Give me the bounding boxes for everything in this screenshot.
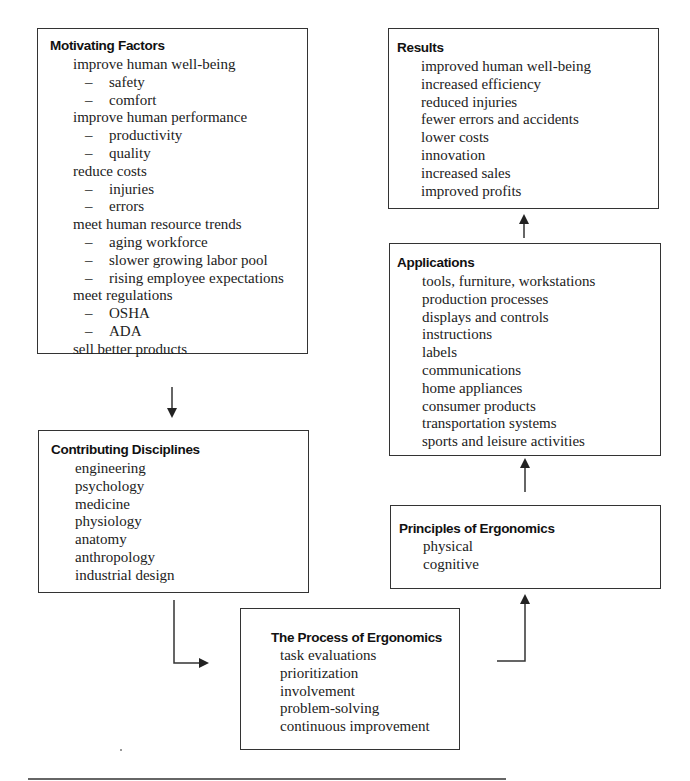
list-item: production processes	[422, 291, 660, 309]
list-item: lower costs	[421, 129, 658, 147]
motivating-factors-box: Motivating Factors improve human well-be…	[37, 28, 308, 354]
list-item: instructions	[422, 326, 660, 344]
list-item: sell better products	[73, 341, 307, 359]
applications-box: Applications tools, furniture, workstati…	[389, 243, 661, 456]
dash-bullet-icon: –	[73, 323, 109, 341]
motivating-factors-list: improve human well-being–safety–comforti…	[50, 56, 307, 359]
process-of-ergonomics-list: task evaluations prioritization involvem…	[271, 647, 459, 736]
dash-bullet-icon: –	[73, 74, 109, 92]
results-title: Results	[397, 39, 658, 57]
process-of-ergonomics-title: The Process of Ergonomics	[271, 629, 459, 647]
arrowhead-down-icon	[167, 408, 177, 418]
dash-bullet-icon: –	[73, 252, 109, 270]
list-item: tools, furniture, workstations	[422, 273, 660, 291]
item-text: slower growing labor pool	[109, 252, 268, 270]
dash-bullet-icon: –	[73, 181, 109, 199]
dash-bullet-icon: –	[73, 305, 109, 323]
dash-bullet-icon: –	[73, 145, 109, 163]
item-text: ADA	[109, 323, 142, 341]
list-item: anatomy	[75, 531, 308, 549]
sub-list-item: –quality	[73, 145, 307, 163]
list-item: communications	[422, 362, 660, 380]
list-item: labels	[422, 344, 660, 362]
bottom-rule	[28, 778, 506, 780]
list-item: physical	[423, 538, 660, 556]
dash-bullet-icon: –	[73, 198, 109, 216]
list-item: anthropology	[75, 549, 308, 567]
list-item: meet human resource trends	[73, 216, 307, 234]
list-item: consumer products	[422, 398, 660, 416]
item-text: improve human well-being	[73, 56, 235, 72]
list-item: problem-solving	[280, 700, 459, 718]
list-item: physiology	[75, 513, 308, 531]
list-item: increased efficiency	[421, 76, 658, 94]
item-text: sell better products	[73, 341, 187, 357]
list-item: improved profits	[421, 183, 658, 201]
stray-mark	[120, 749, 122, 751]
list-item: increased sales	[421, 165, 658, 183]
list-item: reduced injuries	[421, 94, 658, 112]
list-item: task evaluations	[280, 647, 459, 665]
item-text: errors	[109, 198, 144, 216]
list-item: home appliances	[422, 380, 660, 398]
arrow-contributing-to-process	[174, 600, 200, 663]
principles-of-ergonomics-box: Principles of Ergonomics physical cognit…	[390, 505, 661, 589]
dash-bullet-icon: –	[73, 127, 109, 145]
list-item: involvement	[280, 683, 459, 701]
contributing-disciplines-title: Contributing Disciplines	[51, 441, 308, 459]
list-item: reduce costs	[73, 163, 307, 181]
item-text: reduce costs	[73, 163, 147, 179]
item-text: improve human performance	[73, 109, 247, 125]
list-item: transportation systems	[422, 415, 660, 433]
sub-list-item: –injuries	[73, 181, 307, 199]
process-of-ergonomics-box: The Process of Ergonomics task evaluatio…	[240, 608, 460, 750]
item-text: injuries	[109, 181, 154, 199]
principles-of-ergonomics-list: physical cognitive	[399, 538, 660, 574]
list-item: continuous improvement	[280, 718, 459, 736]
list-item: improve human well-being	[73, 56, 307, 74]
results-list: improved human well-being increased effi…	[397, 58, 658, 200]
sub-list-item: –rising employee expectations	[73, 270, 307, 288]
sub-list-item: –errors	[73, 198, 307, 216]
item-text: OSHA	[109, 305, 150, 323]
sub-list-item: –comfort	[73, 92, 307, 110]
list-item: medicine	[75, 496, 308, 514]
list-item: engineering	[75, 460, 308, 478]
principles-of-ergonomics-title: Principles of Ergonomics	[399, 520, 660, 538]
sub-list-item: –safety	[73, 74, 307, 92]
item-text: quality	[109, 145, 151, 163]
list-item: psychology	[75, 478, 308, 496]
list-item: improved human well-being	[421, 58, 658, 76]
item-text: comfort	[109, 92, 156, 110]
contributing-disciplines-list: engineering psychology medicine physiolo…	[51, 460, 308, 585]
item-text: meet regulations	[73, 287, 173, 303]
list-item: fewer errors and accidents	[421, 111, 658, 129]
sub-list-item: –aging workforce	[73, 234, 307, 252]
list-item: sports and leisure activities	[422, 433, 660, 451]
motivating-factors-title: Motivating Factors	[50, 37, 307, 55]
arrowhead-right-icon	[199, 658, 209, 668]
arrowhead-up-icon	[520, 594, 530, 604]
dash-bullet-icon: –	[73, 92, 109, 110]
list-item: industrial design	[75, 567, 308, 585]
sub-list-item: –OSHA	[73, 305, 307, 323]
arrowhead-up-icon	[519, 214, 529, 224]
results-box: Results improved human well-being increa…	[388, 28, 659, 209]
list-item: meet regulations	[73, 287, 307, 305]
sub-list-item: –ADA	[73, 323, 307, 341]
dash-bullet-icon: –	[73, 234, 109, 252]
item-text: rising employee expectations	[109, 270, 284, 288]
applications-list: tools, furniture, workstations productio…	[397, 273, 660, 451]
dash-bullet-icon: –	[73, 270, 109, 288]
sub-list-item: –productivity	[73, 127, 307, 145]
list-item: innovation	[421, 147, 658, 165]
list-item: cognitive	[423, 556, 660, 574]
list-item: improve human performance	[73, 109, 307, 127]
arrowhead-up-icon	[520, 458, 530, 468]
item-text: meet human resource trends	[73, 216, 242, 232]
list-item: prioritization	[280, 665, 459, 683]
arrow-process-to-principles	[497, 604, 525, 661]
sub-list-item: –slower growing labor pool	[73, 252, 307, 270]
item-text: productivity	[109, 127, 182, 145]
item-text: safety	[109, 74, 145, 92]
